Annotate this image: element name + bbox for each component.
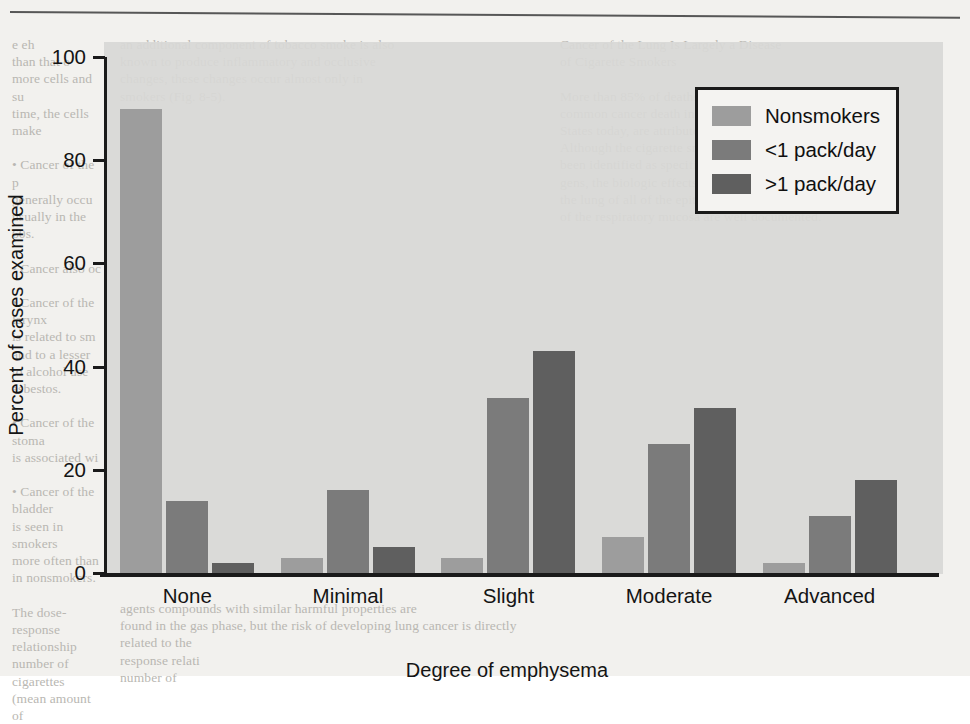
y-axis-tick-label: 20 [28, 458, 86, 482]
bar-group [268, 57, 429, 573]
bar [694, 408, 736, 573]
x-axis-tick-label: Slight [428, 584, 589, 608]
bar [327, 490, 369, 573]
y-axis-tick [93, 572, 105, 575]
y-axis-tick-label: 40 [28, 355, 86, 379]
bar [533, 351, 575, 573]
bar-group [107, 57, 268, 573]
bar [763, 563, 805, 573]
bar [602, 537, 644, 573]
legend-label: Nonsmokers [765, 104, 880, 128]
bar [855, 480, 897, 573]
x-axis-tick-label: Moderate [589, 584, 750, 608]
y-axis-tick [93, 159, 105, 162]
y-axis-tick [93, 366, 105, 369]
x-axis-tick-label: Minimal [268, 584, 429, 608]
chart-legend: Nonsmokers<1 pack/day>1 pack/day [695, 87, 899, 214]
bar [120, 109, 162, 573]
x-axis-tick-label: Advanced [749, 584, 910, 608]
y-axis-tick [93, 262, 105, 265]
y-axis-tick-label: 80 [28, 148, 86, 172]
x-axis-title: Degree of emphysema [104, 659, 910, 682]
y-axis-tick-label: 60 [28, 251, 86, 275]
bar-group [428, 57, 589, 573]
legend-label: >1 pack/day [765, 172, 876, 196]
bar [166, 501, 208, 573]
legend-swatch [712, 174, 751, 194]
bar [373, 547, 415, 573]
x-axis-tick-labels: NoneMinimalSlightModerateAdvanced [107, 584, 910, 608]
x-axis-line [100, 573, 939, 577]
y-axis-tick [93, 56, 105, 59]
legend-item: Nonsmokers [712, 99, 880, 133]
bar [281, 558, 323, 573]
bar [212, 563, 254, 573]
bar [441, 558, 483, 573]
y-axis-tick-label: 100 [28, 45, 86, 69]
bar [648, 444, 690, 573]
legend-swatch [712, 140, 751, 160]
legend-item: <1 pack/day [712, 133, 880, 167]
x-axis-tick-label: None [107, 584, 268, 608]
legend-swatch [712, 106, 751, 126]
y-axis-tick-label: 0 [28, 561, 86, 585]
bar [487, 398, 529, 573]
y-axis-title: Percent of cases examined [5, 115, 28, 515]
legend-label: <1 pack/day [765, 138, 876, 162]
y-axis-tick [93, 469, 105, 472]
legend-item: >1 pack/day [712, 167, 880, 201]
bar [809, 516, 851, 573]
